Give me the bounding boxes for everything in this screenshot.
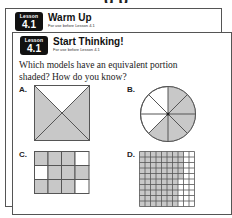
badge-label: Lesson — [15, 12, 43, 19]
model-d-label: D. — [127, 150, 135, 159]
model-a-label: A. — [19, 85, 27, 94]
card-title: Start Thinking! — [53, 36, 124, 47]
start-thinking-header: Lesson 4.1 Start Thinking! For use befor… — [20, 36, 124, 55]
start-thinking-card: Lesson 4.1 Start Thinking! For use befor… — [12, 32, 232, 215]
card-title: Warm Up — [48, 12, 95, 23]
badge-number: 4.1 — [15, 20, 43, 30]
model-d-grid — [139, 151, 195, 207]
card-subtitle: For use before Lesson 4.1 — [53, 47, 124, 52]
model-b-label: B. — [127, 85, 135, 94]
cropped-heading-fragment: g p — [0, 0, 232, 3]
model-a-square — [34, 85, 90, 141]
badge-label: Lesson — [20, 36, 48, 43]
model-c-label: C. — [19, 150, 27, 159]
lesson-badge: Lesson 4.1 — [20, 36, 48, 55]
badge-number: 4.1 — [20, 44, 48, 54]
model-c-grid — [34, 151, 90, 194]
lesson-badge: Lesson 4.1 — [15, 12, 43, 31]
question-text: Which models have an equivalent portion … — [19, 59, 199, 83]
model-b-circle — [139, 85, 197, 143]
warm-up-header: Lesson 4.1 Warm Up For use before Lesson… — [15, 12, 95, 31]
card-subtitle: For use before Lesson 4.1 — [48, 23, 95, 28]
